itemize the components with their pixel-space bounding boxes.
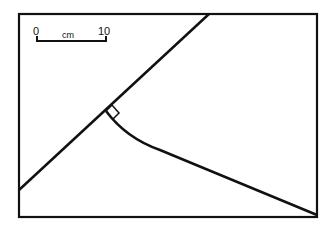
scale-start-label: 0: [33, 25, 39, 37]
scale-bar: 0 cm 10: [33, 25, 110, 41]
frame: [19, 14, 317, 217]
curved-line: [106, 111, 317, 215]
scale-end-label: 10: [98, 25, 110, 37]
scale-unit-label: cm: [62, 30, 74, 40]
diagram-canvas: 0 cm 10: [0, 0, 329, 229]
